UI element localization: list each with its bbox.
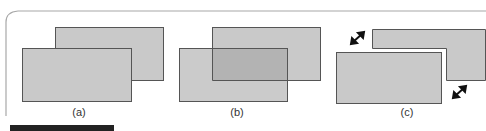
bottom-bar — [10, 125, 114, 131]
panel-a — [23, 28, 164, 102]
panel-b — [180, 28, 321, 102]
overlap-region — [213, 49, 288, 81]
panel-b-label: (b) — [222, 106, 252, 118]
double-arrow-icon — [351, 32, 364, 44]
front-rectangle — [337, 53, 442, 104]
panel-a-label: (a) — [64, 106, 94, 118]
double-arrow-icon — [453, 86, 466, 98]
front-rectangle — [23, 49, 132, 102]
panel-c-label: (c) — [392, 106, 422, 118]
panel-c — [337, 30, 486, 104]
